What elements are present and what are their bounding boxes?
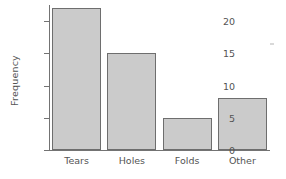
- y-axis-title: Frequency: [0, 0, 28, 160]
- x-axis-line: [49, 150, 270, 151]
- y-axis-tick-mark: [44, 86, 49, 87]
- plot-area: [49, 5, 270, 150]
- y-axis-tick-label: 15: [213, 48, 235, 59]
- bar-tears: [52, 8, 101, 150]
- y-axis-tick-label: 0: [213, 145, 235, 156]
- y-axis-tick-mark: [44, 53, 49, 54]
- x-axis-category-label: Tears: [64, 155, 89, 166]
- y-axis-tick-label: 5: [213, 112, 235, 123]
- x-axis-category-label: Folds: [175, 155, 200, 166]
- x-axis-category-label: Other: [229, 155, 256, 166]
- x-axis-category-label: Holes: [119, 155, 145, 166]
- y-axis-tick-label: 20: [213, 16, 235, 27]
- bar-other: [218, 98, 267, 150]
- y-axis-tick-mark: [44, 150, 49, 151]
- bar-chart-figure: Frequency 05101520TearsHolesFoldsOther: [0, 0, 286, 179]
- scan-artifact-speck: [270, 43, 274, 45]
- bar-folds: [163, 118, 212, 150]
- y-axis-tick-mark: [44, 118, 49, 119]
- y-axis-tick-label: 10: [213, 80, 235, 91]
- y-axis-line: [49, 5, 50, 150]
- y-axis-title-text: Frequency: [9, 55, 20, 106]
- y-axis-tick-mark: [44, 21, 49, 22]
- bar-holes: [107, 53, 156, 150]
